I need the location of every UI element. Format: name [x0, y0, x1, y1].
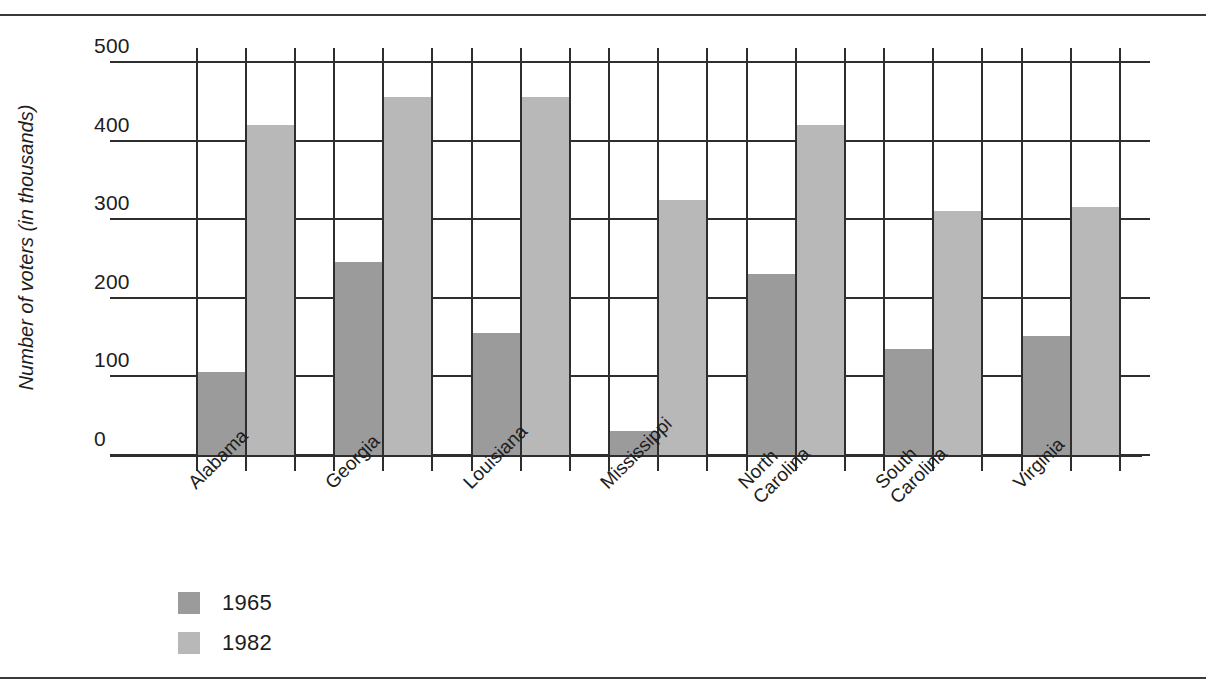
chart-legend: 19651982 — [178, 583, 272, 663]
x-tick-label: SouthCarolina — [871, 428, 951, 508]
x-tick-label-line: Mississippi — [596, 413, 676, 493]
legend-item-1982: 1982 — [178, 623, 272, 663]
x-tick-label: Louisiana — [459, 420, 532, 493]
x-tick-label-line: Georgia — [321, 430, 384, 493]
legend-swatch-1965 — [178, 592, 200, 614]
x-tick-label: NorthCarolina — [734, 428, 814, 508]
x-tick-label-line: Virginia — [1009, 433, 1069, 493]
x-tick-label: Mississippi — [596, 413, 676, 493]
x-tick-label-line: Louisiana — [459, 420, 532, 493]
bar-chart: 0100200300400500 Number of voters (in th… — [0, 0, 1206, 696]
legend-label-1965: 1965 — [222, 590, 272, 616]
x-tick-label: Alabama — [184, 425, 252, 493]
x-tick-label: Georgia — [321, 430, 384, 493]
x-tick-label-line: Alabama — [184, 425, 252, 493]
legend-swatch-1982 — [178, 632, 200, 654]
legend-item-1965: 1965 — [178, 583, 272, 623]
legend-label-1982: 1982 — [222, 630, 272, 656]
x-tick-label: Virginia — [1009, 433, 1069, 493]
